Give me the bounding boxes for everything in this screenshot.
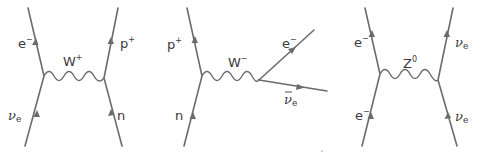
label-out-lower: νe [284, 92, 297, 108]
label-bottom-left: n [175, 108, 183, 123]
fermion-line-right [438, 8, 457, 146]
label-top-left: e− [18, 35, 33, 51]
label-bottom-left: νe [8, 108, 21, 124]
arrow-icon [444, 30, 451, 37]
fermion-line-out-lower [259, 80, 327, 91]
label-bottom-right: νe [455, 109, 468, 125]
fermion-line-left [362, 8, 380, 146]
label-boson: W− [228, 54, 248, 70]
diagram-w-minus: p+ W− e− νe n [167, 8, 327, 152]
label-top-right: p+ [120, 35, 135, 51]
label-top-right: νe [455, 35, 468, 51]
arrow-icon [108, 37, 115, 44]
label-boson: Z0 [403, 55, 417, 71]
diagram-z-zero: e− Z0 νe e− νe [354, 8, 468, 146]
label-top-left: e− [354, 34, 369, 50]
label-boson: W+ [63, 53, 83, 69]
fermion-line-right [104, 8, 122, 146]
label-bottom-left: e− [355, 107, 370, 123]
diagram-w-plus: e− W+ p+ νe n [8, 8, 135, 146]
feynman-diagrams: e− W+ p+ νe n p+ W− e− νe n e− [0, 0, 483, 157]
boson-wave [380, 70, 438, 81]
fermion-line-left [25, 8, 44, 146]
arrow-icon [190, 112, 197, 119]
label-bottom-right: n [117, 108, 125, 123]
fermion-line-left [184, 8, 202, 146]
stray-dot [321, 150, 323, 152]
arrow-icon [192, 36, 199, 43]
label-top-left: p+ [167, 36, 182, 52]
boson-wave [44, 72, 104, 82]
boson-wave [202, 72, 259, 82]
arrow-icon [296, 84, 305, 90]
arrow-icon [445, 112, 452, 119]
